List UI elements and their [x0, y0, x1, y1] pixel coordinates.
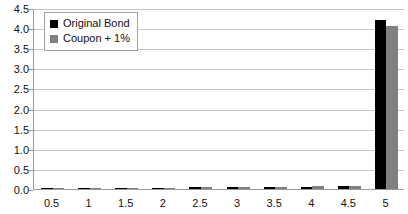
x-axis-tick-label: 0.5: [33, 198, 70, 209]
bar: [264, 187, 276, 189]
bar: [78, 188, 90, 189]
bar: [41, 188, 53, 189]
gridline: [34, 89, 404, 90]
bar: [115, 188, 127, 189]
y-axis-tick-label: 4.5: [0, 4, 29, 15]
legend-item-1: Coupon + 1%: [50, 31, 130, 46]
bar: [375, 20, 387, 189]
y-axis-tick-label: 1.0: [0, 145, 29, 156]
legend-item-label: Coupon + 1%: [63, 33, 130, 44]
bar: [189, 187, 201, 189]
gridline: [34, 130, 404, 131]
x-axis-tick-label: 2.5: [181, 198, 218, 209]
x-axis-tick-label: 2: [144, 198, 181, 209]
y-axis-tick-label: 4.0: [0, 24, 29, 35]
gridline: [34, 110, 404, 111]
y-axis-tick-mark: [29, 190, 33, 191]
x-axis-tick-label: 5: [367, 198, 404, 209]
chart-legend: Original Bond Coupon + 1%: [44, 12, 138, 51]
legend-swatch-icon: [50, 20, 58, 28]
x-axis-tick-label: 1: [70, 198, 107, 209]
gridline: [34, 170, 404, 171]
gridline: [34, 150, 404, 151]
bar: [275, 187, 287, 189]
y-axis-tick-label: 1.5: [0, 125, 29, 136]
y-axis-tick-label: 3.5: [0, 44, 29, 55]
bar: [227, 187, 239, 189]
bar-chart: 0.00.51.01.52.02.53.03.54.04.5 0.511.522…: [0, 0, 408, 214]
bar: [201, 187, 213, 189]
bar: [386, 26, 398, 189]
bar: [53, 188, 65, 189]
x-axis-tick-label: 3.5: [256, 198, 293, 209]
legend-item-label: Original Bond: [63, 18, 130, 29]
bar: [164, 188, 176, 189]
y-axis-tick-label: 2.0: [0, 105, 29, 116]
bar: [338, 186, 350, 189]
bar: [238, 187, 250, 189]
x-axis-tick-label: 1.5: [107, 198, 144, 209]
bar: [312, 186, 324, 189]
legend-swatch-icon: [50, 35, 58, 43]
bar: [90, 188, 102, 189]
gridline: [34, 69, 404, 70]
y-axis-tick-label: 0.5: [0, 165, 29, 176]
gridline: [34, 9, 404, 10]
x-axis-tick-label: 4: [293, 198, 330, 209]
y-axis-tick-label: 3.0: [0, 64, 29, 75]
bar: [301, 187, 313, 189]
bar: [152, 188, 164, 189]
y-axis-tick-label: 2.5: [0, 84, 29, 95]
legend-item-0: Original Bond: [50, 16, 130, 31]
bar: [127, 188, 139, 189]
x-axis-tick-label: 3: [219, 198, 256, 209]
x-axis-tick-label: 4.5: [330, 198, 367, 209]
y-axis-tick-label: 0.0: [0, 185, 29, 196]
bar: [349, 186, 361, 189]
